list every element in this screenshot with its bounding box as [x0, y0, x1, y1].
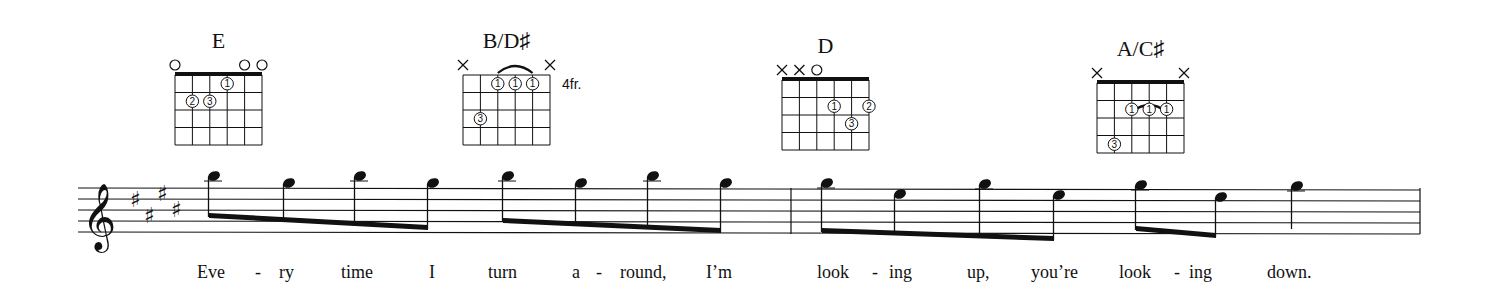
lyric-syllable: I’m [706, 262, 732, 282]
beam [822, 228, 1054, 241]
note [1287, 179, 1305, 229]
finger-number: 1 [831, 101, 837, 112]
finger-position: 3 [845, 118, 857, 130]
chord-diagram: A/C♯1113 [1092, 36, 1189, 153]
chord-name: E [212, 28, 225, 53]
finger-position: 1 [1126, 103, 1138, 115]
muted-string-icon [794, 65, 804, 75]
chord-diagram: D123 [777, 33, 875, 150]
lyric-syllable: time [341, 262, 373, 282]
finger-position: 1 [1143, 103, 1155, 115]
staff-line [78, 210, 1420, 212]
barre-arc [498, 66, 533, 73]
lyric-syllable: turn [488, 262, 517, 282]
finger-number: 3 [1112, 139, 1118, 150]
notes [204, 169, 1305, 241]
sheet-music: E123B/D♯4fr.1113D123A/C♯1113 𝄞♯♯♯♯ Eve-r… [0, 0, 1493, 302]
open-string-icon [812, 65, 822, 75]
chord-diagram: B/D♯4fr.1113 [458, 28, 581, 145]
muted-string-icon [1179, 68, 1189, 78]
finger-number: 3 [478, 113, 484, 124]
lyric-syllable: look [817, 262, 849, 282]
nut [782, 77, 869, 81]
beam [503, 218, 721, 233]
open-string-icon [170, 60, 180, 70]
finger-number: 3 [207, 96, 213, 107]
finger-position: 2 [186, 95, 198, 107]
open-string-icon [240, 60, 250, 70]
note [1052, 188, 1067, 240]
lyric-syllable: round, [620, 262, 667, 282]
chord-name: A/C♯ [1117, 36, 1165, 61]
chord-name: D [818, 33, 834, 58]
muted-string-icon [545, 60, 555, 70]
staff-line [78, 232, 1420, 234]
muted-string-icon [458, 60, 468, 70]
lyric-syllable: ing [889, 262, 912, 282]
nut [1097, 80, 1184, 84]
finger-position: 1 [509, 78, 521, 90]
lyric-syllable: Eve [197, 262, 225, 282]
finger-position: 1 [221, 78, 233, 90]
lyric-hyphen: - [255, 262, 261, 282]
note [574, 176, 589, 225]
finger-position: 1 [1160, 103, 1172, 115]
note [350, 169, 368, 225]
lyric-syllable: I [429, 262, 435, 282]
finger-position: 1 [492, 78, 504, 90]
staff-line [78, 188, 1420, 190]
lyric-syllable: ing [1189, 262, 1212, 282]
finger-number: 1 [224, 78, 230, 89]
lyrics: Eve-rytimeIturna-round,I’mlook-ingup,you… [197, 262, 1312, 282]
finger-position: 3 [204, 95, 216, 107]
chord-diagram: E123 [170, 28, 267, 145]
note [817, 176, 835, 232]
note [1214, 190, 1229, 237]
finger-position: 1 [526, 78, 538, 90]
lyric-hyphen: - [596, 262, 602, 282]
muted-string-icon [1092, 68, 1102, 78]
note [975, 177, 993, 237]
note [643, 169, 661, 228]
finger-number: 1 [530, 78, 536, 89]
note [719, 176, 734, 232]
finger-number: 1 [512, 78, 518, 89]
sharp-icon: ♯ [157, 181, 168, 206]
lyric-syllable: look [1119, 262, 1151, 282]
sharp-icon: ♯ [144, 203, 155, 228]
finger-number: 1 [495, 78, 501, 89]
lyric-syllable: a [572, 262, 580, 282]
lyric-syllable: up, [967, 262, 990, 282]
chord-diagrams: E123B/D♯4fr.1113D123A/C♯1113 [170, 28, 1189, 153]
note [498, 169, 516, 222]
finger-number: 2 [190, 96, 196, 107]
finger-number: 2 [866, 101, 872, 112]
lyric-syllable: ry [279, 262, 294, 282]
finger-number: 1 [1129, 104, 1135, 115]
finger-position: 2 [863, 100, 875, 112]
open-string-icon [257, 60, 267, 70]
finger-number: 1 [1146, 104, 1152, 115]
beam [1136, 226, 1216, 238]
lyric-syllable: you’re [1031, 262, 1078, 282]
finger-position: 3 [1108, 138, 1120, 150]
lyric-hyphen: - [1174, 262, 1180, 282]
finger-number: 3 [849, 118, 855, 129]
lyric-syllable: down. [1267, 262, 1312, 282]
note [282, 176, 297, 221]
nut [175, 72, 262, 76]
finger-number: 1 [1164, 104, 1170, 115]
treble-clef-icon: 𝄞 [82, 182, 116, 253]
sharp-icon: ♯ [130, 187, 141, 212]
sharp-icon: ♯ [171, 197, 182, 222]
muted-string-icon [777, 65, 787, 75]
base-fret-label: 4fr. [562, 76, 581, 92]
lyric-hyphen: - [872, 262, 878, 282]
chord-name: B/D♯ [483, 28, 531, 53]
finger-position: 1 [828, 100, 840, 112]
finger-position: 3 [474, 113, 486, 125]
